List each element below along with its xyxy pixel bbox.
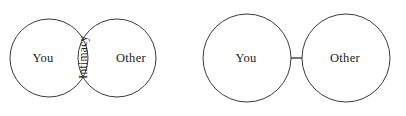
venn-label-other: Other: [103, 51, 159, 66]
venn-label-intimacy: Intimacy: [77, 33, 89, 81]
figure-canvas: You Other Intimacy You Other: [0, 0, 406, 116]
pair-label-you: You: [222, 51, 270, 66]
pair-label-other: Other: [317, 51, 373, 66]
venn-label-you: You: [19, 51, 67, 66]
